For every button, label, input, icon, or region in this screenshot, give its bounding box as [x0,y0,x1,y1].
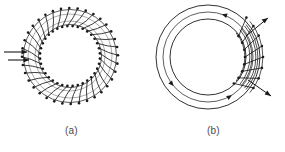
toroid-b-field-arrowheads [168,12,233,100]
toroid-a-inner-dot [81,28,84,31]
toroid-a-outer-dot [84,9,87,12]
toroid-b-turn [242,68,262,72]
toroid-b-inner-dot [237,77,240,80]
toroid-a-inner-dot [40,62,43,65]
figure-panel-a: (a) [0,0,143,152]
toroid-a-inner-dot [71,85,74,88]
toroid-b-outer-dot [257,77,260,80]
caption-panel-a: (a) [0,124,143,138]
toroid-a-inner-dot [96,42,99,45]
toroid-a-turn [33,26,43,44]
toroid-b-inner-dot [243,63,246,66]
toroid-b-outer-dot [252,25,255,28]
toroid-a-inner-dot [93,37,96,40]
toroid-a-outer-dot [21,55,24,58]
toroid-a-turn [97,69,107,87]
toroid-diagram-b [142,0,285,124]
toroid-a-outer-dot [92,13,95,16]
toroid-a-outer-dot [110,30,113,33]
toroid-b-inner-dot [233,82,236,85]
toroid-a-outer-dot [27,79,30,82]
toroid-a-outer-dot [37,18,40,21]
toroid-a-inner-dot [61,84,64,87]
toroid-b-inner-dot [243,48,246,51]
toroid-a-inner-dot [42,67,45,70]
toroid-a-inner-dot [56,82,59,85]
toroid-a-outer-dot [106,85,109,88]
toroid-a-inner-dot [71,25,74,28]
toroid-a-outer-dot [31,24,34,27]
toroid-a-turn [40,83,58,93]
toroid-a-inner-dot [86,79,89,82]
toroid-a-outer-dot [24,72,27,75]
toroid-a-outer-dot [69,103,72,106]
toroid-b-circle-middle [163,12,253,102]
toroid-a-inner-dot [47,34,50,37]
toroid-b-inner-dot [241,41,244,44]
toroid-a-turn [91,31,111,34]
caption-panel-b: (b) [142,124,285,138]
toroid-a-turn [91,77,94,97]
toroid-a-inner-dot [56,28,59,31]
toroid-a-inner-dot [51,30,54,33]
toroid-a-inner-dot [52,79,55,82]
lead-arrow-lower-right [248,80,271,96]
toroid-b-inner-dot [241,70,244,73]
toroid-a-outer-dot [99,17,102,20]
toroid-a-inner-dot [44,38,47,41]
toroid-a-ring-2 [35,21,105,91]
figure-panel-b: (b) [142,0,285,152]
toroid-a-inner-dot [42,42,45,45]
lead-arrow-upper-right [246,18,268,36]
toroid-b-outer-dot [262,56,265,59]
toroid-a-outer-dot [76,7,79,10]
toroid-a-turn [25,72,45,73]
toroid-a-outer-dot [38,92,41,95]
toroid-a-inner-dot [44,72,47,75]
toroid-a-outer-dot [61,102,64,105]
toroid-a-outer-dot [44,13,47,16]
toroid-b-outer-dot [261,45,264,48]
toroid-a-outer-dot [105,23,108,26]
toroid-a-inner-dot [99,57,102,60]
toroid-a-turn [86,81,87,101]
toroid-a-turn [95,39,115,40]
toroid-a-outer-dot [114,70,117,73]
field-arrowhead-bottom-right [226,93,233,100]
toroid-a-turn [29,77,49,80]
toroid-a-outer-dot [22,64,25,67]
toroid-a-outer-dot [93,96,96,99]
toroid-b-inner-dot [244,56,247,59]
toroid-a-inner-dot [98,47,101,50]
toroid-a-inner-dot [76,26,79,29]
toroid-a-inner-dot [90,33,93,36]
toroid-b-outer-dot [245,16,248,19]
toroid-a-ring-0 [24,10,117,103]
toroid-a-inner-dot [40,47,43,50]
toroid-a-inner-dot [93,72,96,75]
toroid-a-outer-dot [114,38,117,41]
toroid-a-inner-dot [81,82,84,85]
toroid-a-outer-dot [116,46,119,49]
toroid-a-inner-dot [98,62,101,65]
toroid-a-inner-dot [90,76,93,79]
toroid-a-inner-dot [66,25,69,28]
toroid-a-inner-dot [61,26,64,29]
toroid-a-outer-dot [86,100,89,103]
toroid-a-outer-dot [111,78,114,81]
toroid-b-outer-dot [257,34,260,37]
toroid-a-inner-dot [86,30,89,33]
toroid-a-outer-dot [52,10,55,13]
toroid-a-guide-rings [24,10,117,103]
toroid-a-outer-dot [53,100,56,103]
flux-arrow-lower [8,58,29,63]
toroid-b-turn [239,78,259,79]
toroid-b-turn [244,36,258,50]
toroid-b-inner-dot [237,35,240,38]
toroid-a-inner-dot [39,57,42,60]
toroid-a-outer-dot [21,47,24,50]
toroid-a-turn [53,11,54,31]
toroid-a-outer-dot [32,86,35,89]
toroid-a-windings [22,8,118,104]
toroid-a-inner-dot [96,67,99,70]
